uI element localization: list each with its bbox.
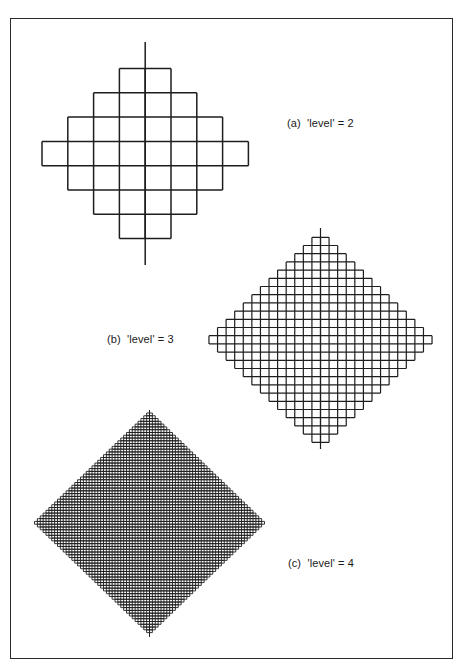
grid-diagram-level-4 <box>0 0 463 671</box>
caption-level-4: (c) 'level' = 4 <box>288 557 354 569</box>
